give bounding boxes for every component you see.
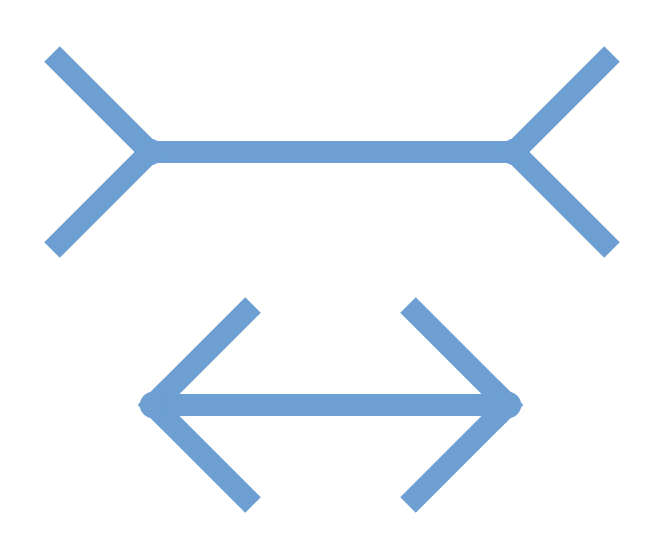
joint [137,139,163,165]
fin-line [408,305,508,405]
arrow-tip [499,381,523,429]
fin-line [408,405,508,505]
fin-line [514,152,612,250]
figure-fins-outward [52,54,612,250]
muller-lyer-figure [0,0,666,541]
fin-line [153,305,253,405]
fin-line [153,405,253,505]
illusion-canvas [0,0,666,541]
fin-line [514,54,612,152]
fin-line [52,54,150,152]
figure-arrow-fins-inward [138,305,524,505]
arrow-tip [138,381,162,429]
fin-line [52,152,150,250]
joint [501,139,527,165]
